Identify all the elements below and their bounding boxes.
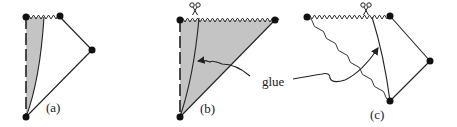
panel-a: (a): [23, 13, 96, 121]
vertex-dot: [387, 13, 394, 20]
vertex-dot: [23, 14, 30, 21]
vertex-dot: [23, 114, 30, 121]
vertex-dot: [272, 17, 279, 24]
panel-b: (b): [177, 3, 280, 121]
zigzag-singularity: [307, 15, 391, 19]
vertex-dot: [177, 114, 184, 121]
scissors-icon: [190, 3, 200, 15]
panel-label-c: (c): [370, 107, 384, 122]
panel-label-b: (b): [200, 101, 215, 116]
cut-curve: [372, 17, 390, 101]
panel-c: (c): [293, 3, 434, 122]
vertex-dot: [57, 13, 64, 20]
vertex-dot: [427, 58, 434, 65]
edge: [390, 16, 430, 61]
vertex-dot: [177, 17, 184, 24]
wavy-diagonal: [307, 17, 391, 101]
edge: [60, 17, 92, 50]
scissors-icon: [361, 3, 371, 15]
glue-label: glue: [262, 74, 285, 89]
vertex-dot: [89, 47, 96, 54]
vertex-dot: [387, 98, 394, 105]
vertex-dot: [304, 14, 311, 21]
panel-label-a: (a): [46, 100, 60, 115]
edge: [390, 61, 430, 101]
penrose-diagram-figure: (a) (b) glue: [0, 0, 457, 127]
